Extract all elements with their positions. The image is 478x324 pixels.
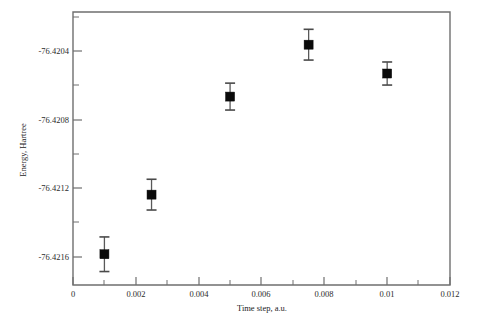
y-tick-label: -76.4216 xyxy=(39,252,69,262)
chart-screenshot: -76.4204 -76.4208 -76.4212 -76.4216 0 0.… xyxy=(0,0,478,324)
data-marker xyxy=(383,69,392,78)
y-tick-label: -76.4204 xyxy=(39,46,70,56)
data-marker xyxy=(304,40,313,49)
data-marker xyxy=(226,92,235,101)
energy-vs-timestep-figure: -76.4204 -76.4208 -76.4212 -76.4216 0 0.… xyxy=(0,0,478,324)
x-tick-label: 0.012 xyxy=(440,289,459,299)
x-tick-label: 0.006 xyxy=(251,289,270,299)
plot-svg: -76.4204 -76.4208 -76.4212 -76.4216 0 0.… xyxy=(0,0,478,324)
x-tick-label: 0.004 xyxy=(189,289,209,299)
x-tick-label: 0.008 xyxy=(314,289,333,299)
x-tick-label: 0 xyxy=(71,289,75,299)
x-axis-title: Time step, a.u. xyxy=(237,303,287,313)
y-tick-label: -76.4212 xyxy=(39,183,69,193)
x-tick-label: 0.002 xyxy=(126,289,145,299)
y-tick-label: -76.4208 xyxy=(39,115,69,125)
data-marker xyxy=(147,190,156,199)
data-marker xyxy=(100,250,109,259)
x-tick-label: 0.01 xyxy=(380,289,395,299)
y-axis-title: Energy, Hartree xyxy=(18,123,28,177)
figure-background xyxy=(0,0,478,324)
